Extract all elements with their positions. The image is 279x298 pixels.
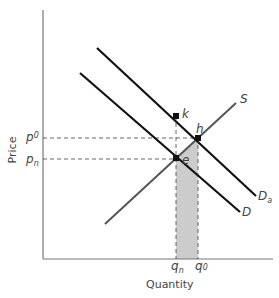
label-s: S [240, 92, 248, 106]
tick-q0: q0 [195, 259, 208, 273]
label-d: D [242, 205, 251, 219]
supply-demand-diagram: k h e S D Da p0 pn qn q0 Quantity Price [0, 0, 279, 298]
tick-qn: qn [171, 259, 184, 275]
x-axis-label: Quantity [146, 278, 194, 291]
demand-curve-d [80, 73, 240, 212]
tick-p0: p0 [25, 130, 39, 144]
label-e: e [182, 153, 189, 167]
label-k: k [182, 107, 190, 121]
point-k [173, 113, 179, 119]
supply-curve-s [105, 103, 236, 224]
label-h: h [196, 122, 204, 136]
label-da: Da [258, 189, 272, 205]
tick-pn: pn [25, 152, 39, 168]
point-e [173, 155, 179, 161]
y-axis-label: Price [6, 136, 19, 163]
